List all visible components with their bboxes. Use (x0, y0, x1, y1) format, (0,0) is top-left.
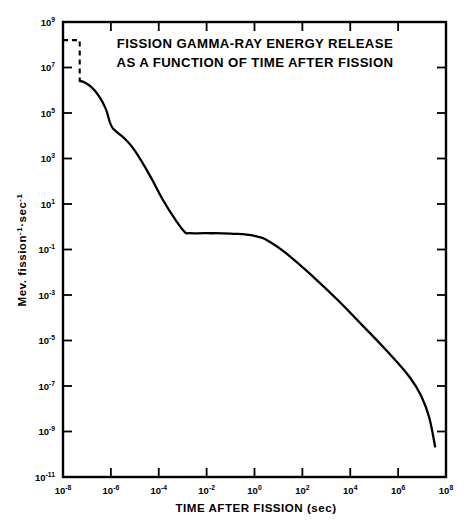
chart-title-line-1: FISSION GAMMA-RAY ENERGY RELEASE (117, 36, 393, 51)
y-axis-title-sup2: -1 (15, 193, 24, 201)
chart-background (0, 0, 470, 529)
y-axis-title-base: Mev. fission (15, 235, 28, 307)
chart-title-line-2: AS A FUNCTION OF TIME AFTER FISSION (116, 55, 393, 70)
chart-figure: 10910710510310110-110-310-510-710-910-11… (0, 0, 470, 529)
y-axis-title-sup1: -1 (15, 227, 24, 235)
y-axis-title: Mev. fission-1·sec-1 (15, 193, 28, 306)
chart-svg: 10910710510310110-110-310-510-710-910-11… (0, 0, 470, 529)
x-axis-title: TIME AFTER FISSION (sec) (175, 501, 336, 514)
y-axis-title-mid: ·sec (15, 202, 28, 227)
svg-text:Mev. fission-1·sec-1: Mev. fission-1·sec-1 (15, 193, 28, 306)
